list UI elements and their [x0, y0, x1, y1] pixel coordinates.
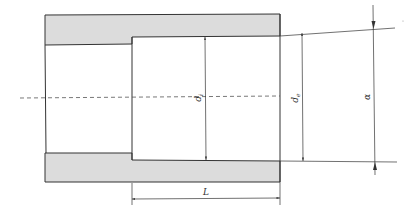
centerline: [20, 96, 280, 98]
top-wall: [45, 14, 280, 45]
inner-diameter-label: di: [193, 94, 204, 102]
arrow-icon: [373, 162, 377, 170]
length-dimension: [132, 198, 280, 199]
outer-dimension-label: α: [362, 94, 372, 100]
left-end-line: [45, 45, 46, 153]
socket-cross-section-diagram: di de α L: [0, 0, 420, 220]
length-label: L: [202, 187, 209, 197]
inner-diameter-dimension: [205, 37, 206, 160]
socket-diameter-dimension: [302, 33, 303, 161]
bottom-wall: [45, 153, 280, 182]
socket-diameter-label: de: [290, 93, 301, 103]
extension-line-top: [280, 28, 395, 36]
extension-line-bottom: [280, 161, 397, 162]
outer-dimension-line: [373, 5, 375, 175]
arrow-icon: [372, 21, 376, 29]
stray-dot: [402, 20, 403, 21]
